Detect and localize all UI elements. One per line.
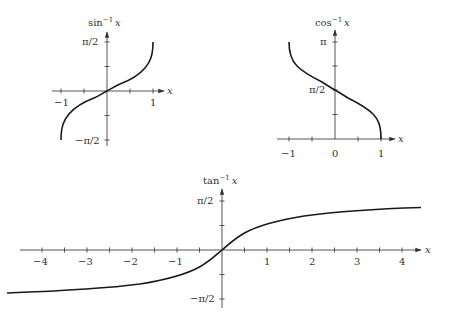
arctan-tick-pi2: π/2 [197,195,213,206]
inverse-trig-figure: sin−1x x −1 1 π/2 −π/2 cos−1x x −1 0 1 π… [0,0,453,323]
arctan-tick-p1: 1 [264,256,270,267]
arctan-x-label: x [425,244,431,255]
arcsin-tick-neg1: −1 [54,97,69,108]
arcsin-tick-negpi2: −π/2 [75,135,100,146]
arctan-tick-p2: 2 [309,256,315,267]
arccos-x-label: x [398,133,404,144]
arcsin-x-label: x [167,85,173,96]
arccos-tick-pos1: 1 [378,148,384,159]
arccos-tick-pi2: π/2 [309,84,325,95]
arctan-plot: tan−1x x −4 −3 −2 −1 1 2 3 4 π/2 −π/2 [7,174,431,308]
arctan-tick-p3: 3 [354,256,360,267]
arccos-title: cos−1x [315,16,350,28]
arcsin-title: sin−1x [88,16,121,28]
arctan-tick-negpi2: −π/2 [190,293,215,304]
arctan-title: tan−1x [203,174,238,186]
arccos-plot: cos−1x x −1 0 1 π π/2 [277,16,404,159]
arctan-tick-n1: −1 [168,256,183,267]
arccos-tick-0: 0 [332,148,338,159]
arctan-tick-p4: 4 [399,256,405,267]
arccos-tick-pi: π [320,36,327,47]
arcsin-plot: sin−1x x −1 1 π/2 −π/2 [52,16,173,146]
arctan-tick-n2: −2 [123,256,138,267]
arcsin-tick-pos1: 1 [150,97,156,108]
arctan-tick-n3: −3 [78,256,93,267]
arctan-tick-n4: −4 [33,256,48,267]
arccos-tick-neg1: −1 [281,148,296,159]
arcsin-tick-pi2: π/2 [82,36,98,47]
